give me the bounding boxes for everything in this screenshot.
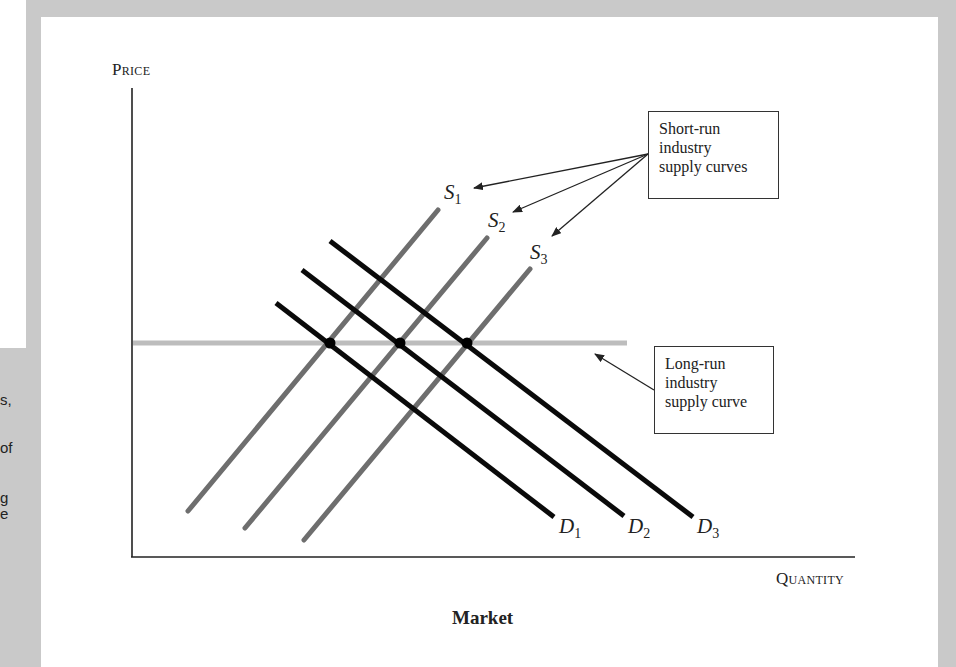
x-axis-label: Quantity <box>776 569 844 589</box>
label-s1: S1 <box>444 180 462 208</box>
callout-line: Long-run <box>665 354 763 373</box>
equilibrium-point-2 <box>395 338 406 349</box>
label-s3: S3 <box>530 240 548 268</box>
arrow-to-s3 <box>552 154 648 236</box>
label-d1: D1 <box>559 514 581 542</box>
short-run-callout: Short-run industry supply curves <box>648 111 779 199</box>
figure-caption: Market <box>452 607 513 629</box>
y-axis-label: Price <box>112 60 150 80</box>
callout-line: supply curve <box>665 392 763 411</box>
callout-line: industry <box>665 373 763 392</box>
label-d2: D2 <box>628 514 650 542</box>
demand-curve-d2 <box>302 270 624 516</box>
callout-line: supply curves <box>659 157 768 176</box>
supply-curve-s1 <box>188 210 438 511</box>
callout-line: Short-run <box>659 119 768 138</box>
market-diagram <box>0 0 956 667</box>
label-s2: S2 <box>488 208 506 236</box>
demand-curve-d1 <box>276 303 554 517</box>
equilibrium-point-1 <box>325 338 336 349</box>
arrow-to-s2 <box>513 154 648 212</box>
long-run-callout: Long-run industry supply curve <box>654 346 774 434</box>
label-d3: D3 <box>697 514 719 542</box>
demand-curve-d3 <box>330 241 693 517</box>
callout-line: industry <box>659 138 768 157</box>
arrow-to-s1 <box>474 154 648 188</box>
equilibrium-point-3 <box>462 338 473 349</box>
arrow-to-long-run <box>595 354 654 390</box>
